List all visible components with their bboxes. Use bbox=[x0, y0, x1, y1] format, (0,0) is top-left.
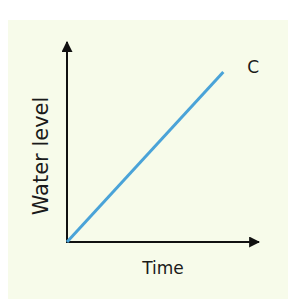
y-axis-label: Water level bbox=[29, 97, 53, 216]
x-axis-label: Time bbox=[141, 258, 184, 278]
series-label-c: C bbox=[247, 57, 259, 77]
series-line-c bbox=[67, 72, 223, 242]
chart: C Water level Time bbox=[0, 0, 296, 299]
